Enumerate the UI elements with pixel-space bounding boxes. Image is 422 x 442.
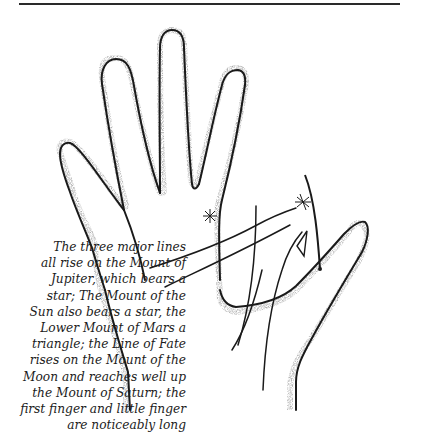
star-icon (203, 209, 217, 223)
caption-line: triangle; the Line of Fate (8, 336, 186, 352)
caption-line: are noticeably long (8, 417, 186, 433)
caption-line: Lower Mount of Mars a (8, 320, 186, 336)
caption-line: Moon and reaches well up (8, 369, 186, 385)
triangle-icon (297, 231, 307, 256)
caption-line: rises on the Mount of the (8, 352, 186, 368)
caption-line: the Mount of Saturn; the (8, 385, 186, 401)
caption-line: Sun also bears a star, the (8, 304, 186, 320)
caption-line: The three major lines (8, 239, 186, 255)
star-icon (295, 194, 311, 210)
index-thumb-edge (305, 175, 320, 269)
caption-line: first finger and little finger (8, 401, 186, 417)
figure-caption: The three major lines all rise on the Mo… (8, 239, 186, 433)
caption-line: all rise on the Mount of (8, 255, 186, 271)
caption-line: Jupiter, which bears a (8, 271, 186, 287)
caption-line: star; The Mount of the (8, 288, 186, 304)
